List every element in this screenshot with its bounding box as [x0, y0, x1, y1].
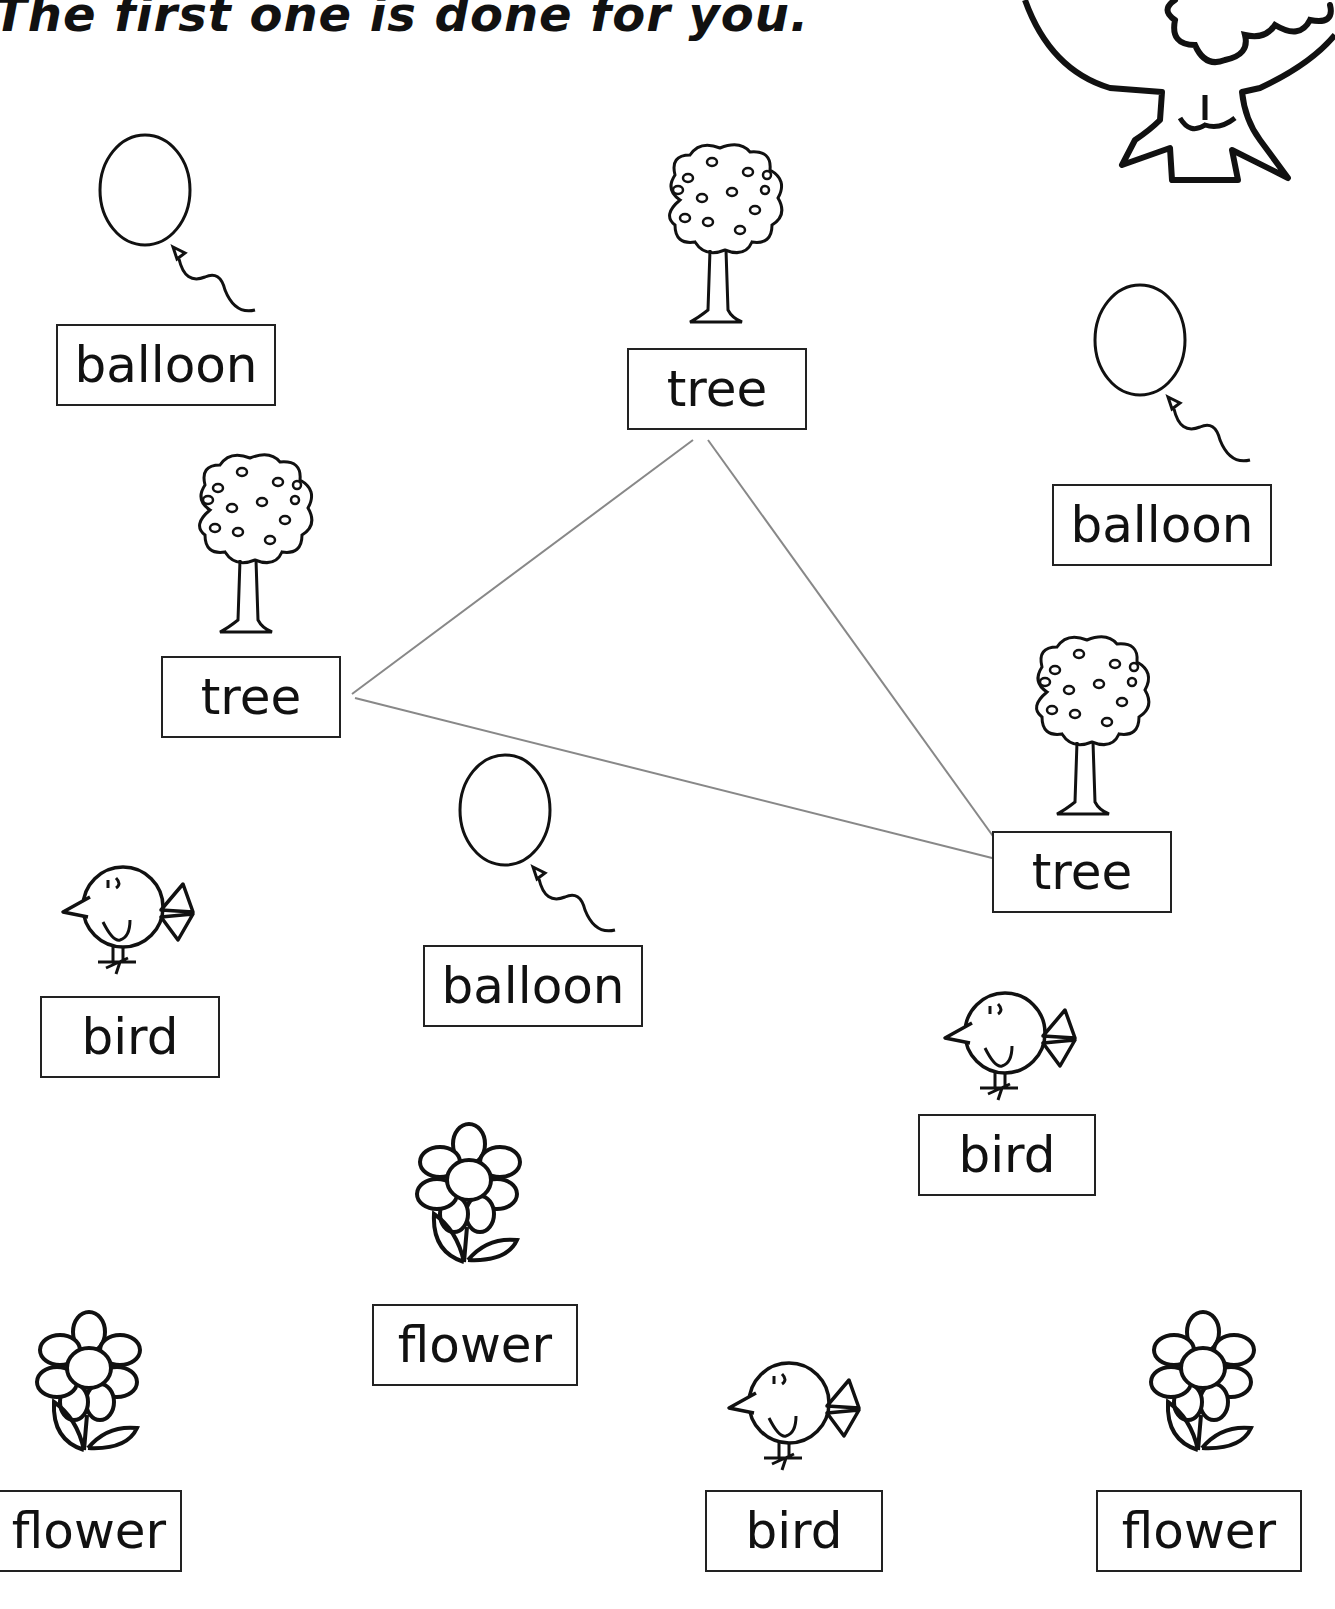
flower-icon [1146, 1310, 1261, 1455]
flower-icon [412, 1122, 527, 1267]
word-label: flower [1122, 1506, 1276, 1556]
word-box-balloon[interactable]: balloon [1052, 484, 1272, 566]
word-label: flower [398, 1320, 552, 1370]
balloon-icon [455, 755, 625, 945]
word-box-tree[interactable]: tree [161, 656, 341, 738]
word-label: tree [201, 672, 302, 722]
balloon-icon [95, 135, 265, 325]
word-box-flower[interactable]: flower [372, 1304, 578, 1386]
tree-icon [660, 140, 790, 330]
word-label: balloon [74, 340, 257, 390]
word-box-bird[interactable]: bird [40, 996, 220, 1078]
word-label: tree [1032, 847, 1133, 897]
word-box-bird[interactable]: bird [918, 1114, 1096, 1196]
word-label: flower [12, 1506, 166, 1556]
word-box-tree[interactable]: tree [627, 348, 807, 430]
word-box-tree[interactable]: tree [992, 831, 1172, 913]
balloon-icon [1090, 285, 1260, 475]
bird-icon [940, 988, 1085, 1103]
bird-icon [724, 1358, 869, 1473]
tree-icon [1027, 632, 1157, 822]
word-label: balloon [441, 961, 624, 1011]
word-label: balloon [1070, 500, 1253, 550]
bird-icon [58, 862, 203, 977]
word-label: bird [958, 1130, 1055, 1180]
word-label: bird [81, 1012, 178, 1062]
word-box-balloon[interactable]: balloon [56, 324, 276, 406]
word-box-flower[interactable]: flower [0, 1490, 182, 1572]
flower-icon [32, 1310, 147, 1455]
word-label: tree [667, 364, 768, 414]
word-box-flower[interactable]: flower [1096, 1490, 1302, 1572]
tree-icon [190, 450, 320, 640]
word-box-balloon[interactable]: balloon [423, 945, 643, 1027]
word-label: bird [745, 1506, 842, 1556]
word-box-bird[interactable]: bird [705, 1490, 883, 1572]
